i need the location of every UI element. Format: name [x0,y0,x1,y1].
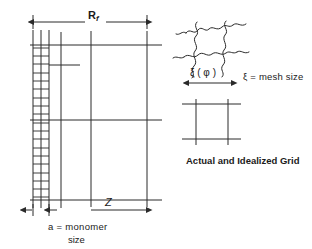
label-rf-main: R [88,9,96,21]
label-mesh-size: ξ = mesh size [243,71,303,82]
label-actual-idealized-grid: Actual and Idealized Grid [186,155,252,167]
figure-root: Rf Z a = monomer size ξ ( φ ) ξ = mesh s… [0,0,312,249]
grid-horizontal-lines [30,45,162,200]
label-rf-subscript: f [96,14,99,23]
label-z: Z [105,196,112,208]
label-monomer-size: a = monomer [48,221,108,232]
diagram-canvas [0,0,312,249]
label-monomer-size-line2: size [68,234,85,245]
idealized-grid-cell [182,99,241,145]
label-rf: Rf [88,9,99,23]
grid-vertical-lines [33,30,147,208]
label-xi-phi: ξ ( φ ) [190,67,216,78]
